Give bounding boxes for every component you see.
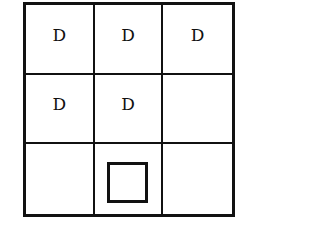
cell-r3-c3 — [163, 144, 232, 214]
cell-r2-c2: D — [95, 75, 164, 145]
cell-label: D — [121, 25, 135, 45]
cell-r1-c1: D — [26, 5, 95, 75]
cell-label: D — [53, 94, 67, 114]
cell-r3-c2 — [95, 144, 164, 214]
cell-r1-c2: D — [95, 5, 164, 75]
square-marker-icon — [107, 162, 148, 203]
cell-label: D — [53, 25, 67, 45]
cell-label: D — [121, 94, 135, 114]
cell-r3-c1 — [26, 144, 95, 214]
grid-3x3: D D D D D — [23, 2, 235, 217]
cell-r2-c1: D — [26, 75, 95, 145]
cell-r2-c3 — [163, 75, 232, 145]
cell-r1-c3: D — [163, 5, 232, 75]
cell-label: D — [191, 25, 205, 45]
